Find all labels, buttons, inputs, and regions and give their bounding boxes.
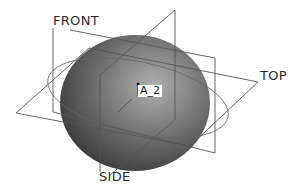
model-viewport[interactable]: FRONT TOP SIDE A_2 [0,0,300,192]
sphere-body [60,35,210,171]
axis-label: A_2 [138,85,162,97]
front-plane-label: FRONT [53,14,99,27]
top-plane-label: TOP [260,69,287,82]
side-plane-label: SIDE [99,170,131,183]
